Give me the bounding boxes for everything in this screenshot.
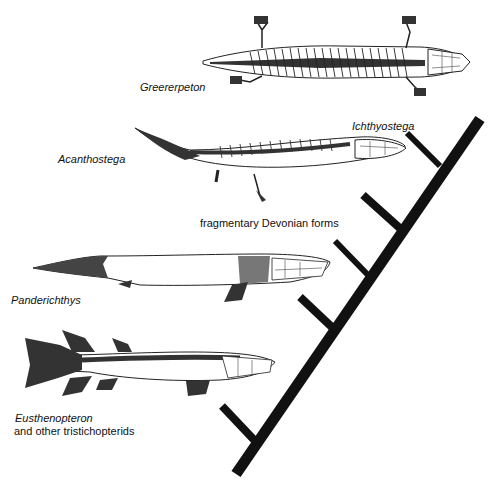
branch-acanthostega: [363, 195, 403, 231]
label-greererpeton: Greererpeton: [140, 81, 205, 93]
label-fragmentary-devonian-forms: fragmentary Devonian forms: [200, 217, 339, 229]
branch-ichthyostega: [407, 133, 440, 166]
label-acanthostega: Acanthostega: [58, 153, 125, 165]
main-trunk: [236, 119, 480, 474]
label-eusthenopteron: Eusthenopteron: [15, 412, 93, 424]
cladogram-tree: [222, 119, 480, 474]
branch-fragmentary: [335, 241, 368, 275]
acanthostega-illustration: [135, 128, 406, 202]
label-tristichopterids: and other tristichopterids: [14, 425, 134, 437]
label-panderichthys: Panderichthys: [11, 294, 81, 306]
label-ichthyostega: Ichthyostega: [352, 120, 414, 132]
branch-eusthenopteron: [222, 406, 257, 443]
branch-panderichthys: [300, 297, 335, 330]
greererpeton-illustration: [203, 16, 470, 96]
eusthenopteron-illustration: [25, 330, 275, 396]
